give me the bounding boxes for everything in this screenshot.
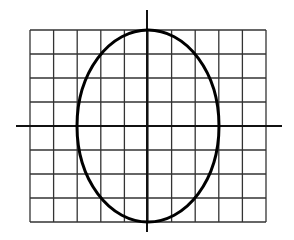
ellipse-diagram: [0, 0, 294, 240]
